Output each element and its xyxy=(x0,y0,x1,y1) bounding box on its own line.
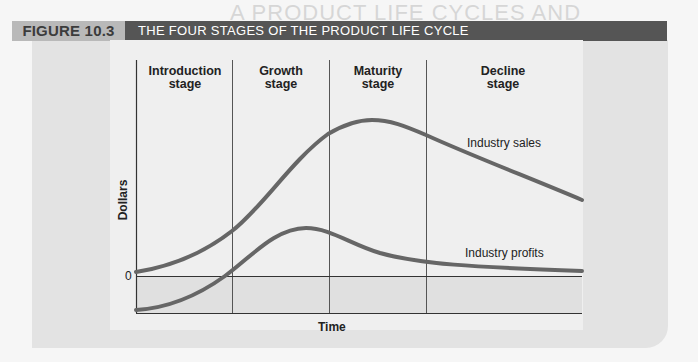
stage-decline: Decline stage xyxy=(458,65,548,91)
industry-sales-label: Industry sales xyxy=(467,136,541,150)
life-cycle-chart xyxy=(0,0,698,362)
stage-growth-line2: stage xyxy=(236,78,326,91)
stage-growth: Growth stage xyxy=(236,65,326,91)
zero-tick-label: 0 xyxy=(125,269,132,283)
industry-profits-label: Industry profits xyxy=(465,246,544,260)
stage-maturity-line2: stage xyxy=(333,78,423,91)
stage-introduction: Introduction stage xyxy=(140,65,230,91)
stage-maturity: Maturity stage xyxy=(333,65,423,91)
stage-decline-line2: stage xyxy=(458,78,548,91)
negative-region xyxy=(136,276,582,313)
stage-introduction-line2: stage xyxy=(140,78,230,91)
x-axis-label: Time xyxy=(318,320,346,334)
y-axis-label: Dollars xyxy=(116,175,130,225)
